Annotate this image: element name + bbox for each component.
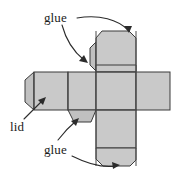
left-lid-tab [25, 72, 34, 110]
box-net-drawing [0, 0, 181, 174]
upper-vertical-panel [96, 65, 136, 72]
glue-label-top: glue [44, 11, 67, 24]
leader-glue-bottom-to-tab [58, 121, 76, 140]
bottom-flap [96, 148, 136, 166]
second-panel [68, 72, 96, 110]
lower-vertical-panel [96, 110, 136, 148]
box-net-figure: glue lid glue [0, 0, 181, 174]
center-panel [96, 72, 136, 110]
lower-middle-tab [68, 110, 96, 122]
glue-label-bottom: glue [44, 143, 67, 156]
lid-label: lid [10, 120, 24, 133]
right-panel [136, 72, 170, 110]
leader-glue-top-to-tab [62, 25, 84, 60]
leader-glue-top-to-flap [77, 17, 128, 30]
upper-left-side-tab [90, 42, 96, 71]
